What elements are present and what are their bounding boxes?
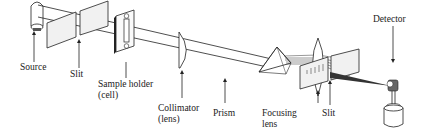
label-focusing-lens: Focusing [262, 108, 297, 118]
source-lamp [31, 2, 43, 31]
label-detector: Detector [373, 14, 407, 24]
label-sample-holder-sub: (cell) [98, 90, 118, 101]
collimator-lens [179, 32, 186, 68]
label-sample-holder: Sample holder [98, 79, 154, 89]
beam-to-detector [330, 72, 391, 86]
label-focusing-lens-sub: lens [262, 119, 278, 129]
sample-holder [114, 10, 134, 54]
entrance-slit [47, 1, 108, 48]
label-prism: Prism [213, 108, 236, 118]
spectrophotometer-diagram: Source Slit Sample holder (cell) Collima… [0, 0, 426, 140]
exit-slit [300, 49, 359, 89]
label-slit-entrance: Slit [70, 69, 84, 79]
label-source: Source [20, 62, 46, 72]
label-collimator: Collimator [158, 103, 200, 113]
prism [259, 47, 291, 74]
label-slit-exit: Slit [322, 108, 336, 118]
label-collimator-sub: (lens) [158, 114, 180, 125]
detector [384, 80, 403, 127]
